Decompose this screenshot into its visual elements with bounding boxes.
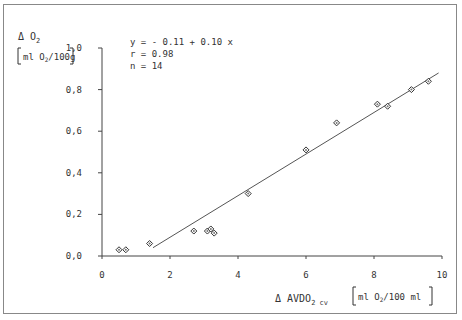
x-tick-label: 4: [235, 270, 240, 280]
svg-text:Δ AVDO2 cv: Δ AVDO2 cv: [275, 293, 328, 307]
y-axis-label: Δ O2: [18, 31, 40, 45]
y-tick-label: 0,0: [66, 251, 82, 261]
y-tick-label: 0,4: [66, 168, 82, 178]
y-tick-label: 0,2: [66, 209, 82, 219]
n-value-text: n = 14: [130, 61, 163, 71]
x-axis-ticks: 0246810: [99, 256, 447, 280]
y-axis-ticks: 0,00,20,40,60,81,0: [66, 43, 102, 261]
svg-text:ml O2/100g: ml O2/100g: [23, 52, 75, 63]
x-tick-label: 6: [303, 270, 308, 280]
svg-text:ml O2/100 ml: ml O2/100 ml: [358, 292, 421, 303]
x-tick-label: 0: [99, 270, 104, 280]
regression-line: [153, 73, 439, 248]
r-value-text: r = 0.98: [130, 49, 173, 59]
y-tick-label: 0,6: [66, 126, 82, 136]
x-axis-label: Δ AVDO2 cv ml O2/100 ml: [275, 287, 432, 307]
x-tick-label: 10: [437, 270, 448, 280]
axes: [102, 48, 442, 256]
regression-annotation: y = - 0.11 + 0.10 x r = 0.98 n = 14: [130, 37, 234, 71]
data-points: [116, 78, 431, 252]
x-tick-label: 8: [371, 270, 376, 280]
x-tick-label: 2: [167, 270, 172, 280]
scatter-chart: 0,00,20,40,60,81,0 0246810 Δ O2 ml O2/10…: [0, 0, 462, 320]
equation-text: y = - 0.11 + 0.10 x: [130, 37, 234, 47]
y-tick-label: 0,8: [66, 85, 82, 95]
